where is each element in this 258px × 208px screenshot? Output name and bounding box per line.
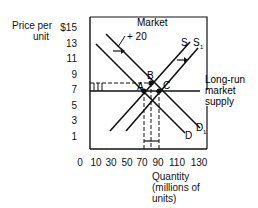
long-run-label-line1: Long-run bbox=[205, 74, 245, 85]
shift-label: + 20 bbox=[127, 31, 147, 42]
point-B bbox=[148, 80, 153, 85]
label-S1: S bbox=[193, 37, 200, 48]
label-S: S bbox=[181, 37, 188, 48]
demand-curve-D1 bbox=[106, 34, 200, 128]
point-C bbox=[156, 88, 161, 93]
market-diagram: Market + 20 S S 1 D D 1 A B C Long-run m… bbox=[0, 0, 258, 208]
label-S1-sub: 1 bbox=[200, 44, 204, 50]
shift-pointer bbox=[118, 36, 125, 47]
label-A: A bbox=[137, 81, 144, 92]
long-run-label-line2: market bbox=[205, 85, 236, 96]
supply-curve-S bbox=[110, 42, 190, 131]
label-C: C bbox=[163, 80, 170, 91]
label-D: D bbox=[185, 130, 192, 141]
label-B: B bbox=[147, 70, 154, 81]
long-run-label-line3: supply bbox=[205, 96, 234, 107]
title-market: Market bbox=[137, 17, 168, 28]
